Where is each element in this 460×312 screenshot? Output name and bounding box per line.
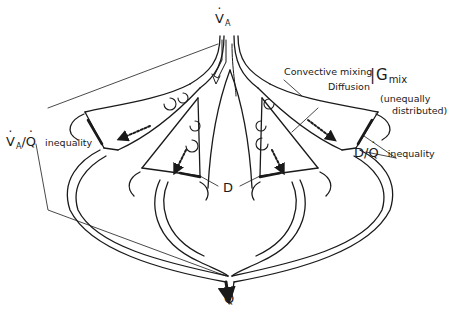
leader-lines xyxy=(36,44,396,276)
convective-eddies xyxy=(164,93,274,152)
gmix-brace: | xyxy=(370,68,375,83)
perfusion-label: Q xyxy=(224,292,234,305)
ventilation-label: VA xyxy=(215,12,230,28)
gmix-note-line1: (unequally xyxy=(380,94,430,104)
diffusing-capacity-label: D xyxy=(223,181,233,194)
convective-mixing-label: Convective mixing xyxy=(284,67,372,77)
dq-inequality-label: D/Q inequality xyxy=(354,144,435,160)
vaq-inequality-label: VA/Q inequality xyxy=(6,133,92,151)
alveolus-right-lower xyxy=(260,98,318,176)
alveolus-center xyxy=(208,70,252,188)
gmix-note-line2: distributed) xyxy=(392,106,447,116)
diffusion-arrows xyxy=(122,120,332,170)
gmix-label: Gmix xyxy=(376,68,407,85)
airway-trunk xyxy=(190,36,270,96)
diffusion-membranes xyxy=(88,120,372,177)
diffusion-label: Diffusion xyxy=(328,82,370,92)
capillary-network xyxy=(67,114,392,296)
